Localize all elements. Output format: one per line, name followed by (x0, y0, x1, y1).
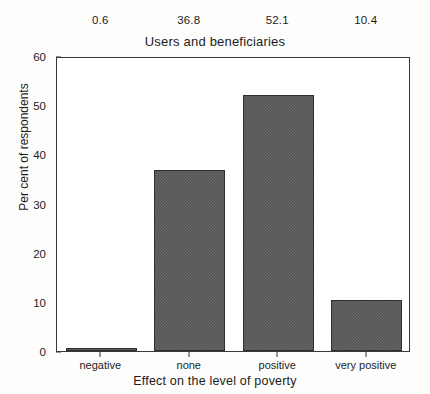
chart-title: Users and beneficiaries (0, 34, 430, 49)
x-tick-label: positive (259, 359, 296, 371)
x-tick-label: very positive (335, 359, 396, 371)
x-tick-label: negative (79, 359, 121, 371)
chart-figure: 0.636.852.110.4 Users and beneficiaries … (0, 0, 430, 394)
data-label: 36.8 (177, 14, 200, 26)
y-tick-label: 20 (33, 248, 46, 260)
y-tick-label: 40 (33, 149, 46, 161)
y-tick-label: 50 (33, 100, 46, 112)
bar (154, 170, 225, 351)
bar (243, 95, 314, 351)
y-tick-label: 30 (33, 199, 46, 211)
bar (66, 348, 137, 351)
data-label: 52.1 (266, 14, 289, 26)
x-tick-label: none (177, 359, 201, 371)
x-tick-mark (100, 352, 101, 357)
data-label: 0.6 (92, 14, 109, 26)
x-axis: negativenonepositivevery positive (56, 352, 410, 372)
x-tick-mark (365, 352, 366, 357)
x-tick-mark (188, 352, 189, 357)
y-tick-label: 0 (40, 346, 46, 358)
data-label-row: 0.636.852.110.4 (56, 14, 410, 30)
data-label: 10.4 (354, 14, 377, 26)
plot-area (56, 57, 410, 352)
x-axis-title: Effect on the level of poverty (0, 374, 430, 388)
y-tick-label: 60 (33, 51, 46, 63)
y-axis-title: Per cent of respondents (17, 67, 31, 227)
x-tick-mark (277, 352, 278, 357)
bar (331, 300, 402, 351)
y-tick-label: 10 (33, 297, 46, 309)
